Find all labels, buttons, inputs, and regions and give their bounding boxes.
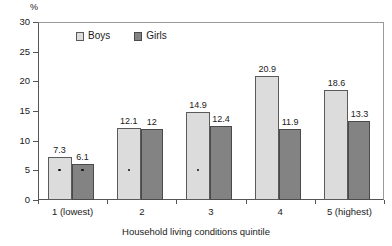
bar-girls-q4 bbox=[279, 129, 301, 200]
y-axis-tick-mark bbox=[33, 52, 38, 53]
bar-value-label: 12 bbox=[133, 117, 171, 127]
y-axis-unit-label: % bbox=[30, 2, 38, 12]
y-axis-tick-label: 20 bbox=[4, 76, 30, 86]
bar-pattern-dot bbox=[197, 169, 200, 172]
bar-boys-q2 bbox=[117, 128, 141, 200]
bar-boys-q4 bbox=[255, 76, 279, 200]
bar-boys-q5 bbox=[324, 90, 348, 200]
x-axis-tick-label: 3 bbox=[176, 206, 245, 217]
y-axis-tick-label: 30 bbox=[4, 17, 30, 27]
x-axis-tick-label: 2 bbox=[107, 206, 176, 217]
bar-value-label: 6.1 bbox=[64, 152, 102, 162]
bar-value-label: 14.9 bbox=[178, 100, 218, 110]
bar-value-label: 11.9 bbox=[271, 117, 309, 127]
x-axis-tick-mark bbox=[38, 200, 39, 204]
x-axis-tick-mark bbox=[315, 200, 316, 204]
y-axis-tick-mark bbox=[33, 141, 38, 142]
legend-label-boys: Boys bbox=[88, 31, 110, 41]
y-axis-tick-label: 0 bbox=[4, 195, 30, 205]
x-axis-tick-mark bbox=[246, 200, 247, 204]
y-axis-tick-mark bbox=[33, 170, 38, 171]
bar-girls-q3 bbox=[210, 126, 232, 200]
bar-pattern-dot bbox=[58, 169, 61, 172]
y-axis-tick-label: 5 bbox=[4, 165, 30, 175]
y-axis-tick-mark bbox=[33, 22, 38, 23]
y-axis-tick-label: 25 bbox=[4, 47, 30, 57]
x-axis-tick-mark bbox=[384, 200, 385, 204]
bar-pattern-dot bbox=[81, 169, 84, 172]
x-axis-title: Household living conditions quintile bbox=[0, 226, 392, 237]
bar-pattern-dot bbox=[128, 169, 131, 172]
bar-girls-q1 bbox=[72, 164, 94, 200]
legend-label-girls: Girls bbox=[146, 31, 167, 41]
y-axis-tick-mark bbox=[33, 111, 38, 112]
x-axis-tick-label: 1 (lowest) bbox=[38, 206, 107, 217]
bar-girls-q2 bbox=[141, 129, 163, 200]
bar-chart: % 051015202530 7.36.112.11214.912.420.91… bbox=[0, 0, 392, 246]
girls-swatch-icon bbox=[134, 32, 142, 41]
y-axis-tick-label: 15 bbox=[4, 106, 30, 116]
bar-value-label: 18.6 bbox=[316, 78, 356, 88]
legend-item-boys: Boys bbox=[76, 31, 110, 41]
boys-swatch-icon bbox=[76, 32, 84, 41]
y-axis-tick-mark bbox=[33, 81, 38, 82]
bar-value-label: 13.3 bbox=[340, 109, 378, 119]
y-axis-tick-label: 10 bbox=[4, 136, 30, 146]
bar-value-label: 12.4 bbox=[202, 114, 240, 124]
x-axis-tick-label: 4 bbox=[246, 206, 315, 217]
x-axis-tick-mark bbox=[107, 200, 108, 204]
bar-boys-q3 bbox=[186, 112, 210, 200]
bar-boys-q1 bbox=[48, 157, 72, 200]
legend-item-girls: Girls bbox=[134, 31, 167, 41]
chart-legend: Boys Girls bbox=[76, 31, 167, 41]
bar-girls-q5 bbox=[348, 121, 370, 200]
x-axis-tick-mark bbox=[176, 200, 177, 204]
x-axis-tick-label: 5 (highest) bbox=[315, 206, 384, 217]
bar-value-label: 20.9 bbox=[247, 64, 287, 74]
